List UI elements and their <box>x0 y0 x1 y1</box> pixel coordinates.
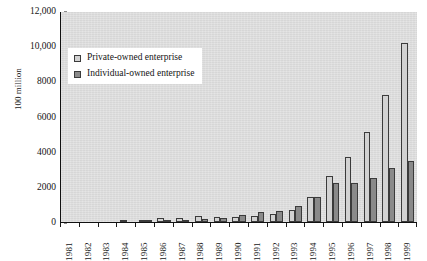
bar-group-1998 <box>379 12 398 222</box>
bar-1984-series0 <box>120 220 127 222</box>
bar-1999-series0 <box>401 43 408 222</box>
bar-1985-series1 <box>145 220 152 222</box>
bar-1995-series1 <box>333 183 340 222</box>
x-axis-group-1994: 1994 <box>304 223 323 261</box>
chart-legend: Private-owned enterpriseIndividual-owned… <box>68 48 202 84</box>
bar-1993-series0 <box>289 210 296 222</box>
bar-group-1987 <box>173 12 192 222</box>
y-axis-tick-12000: 12,000 <box>10 7 56 17</box>
x-axis-tick-1989: 1989 <box>215 228 224 261</box>
bar-1990-series0 <box>232 217 239 222</box>
x-axis-tick-1998: 1998 <box>384 228 393 261</box>
y-axis-tick-6000: 6000 <box>10 113 56 123</box>
bar-group-1997 <box>361 12 380 222</box>
x-axis-tick-1982: 1982 <box>84 228 93 261</box>
x-axis-tick-1999: 1999 <box>403 228 412 261</box>
bar-1998-series0 <box>382 95 389 222</box>
bar-group-1981 <box>61 12 80 222</box>
x-axis-group-1985: 1985 <box>135 223 154 261</box>
bar-1993-series1 <box>295 206 302 222</box>
bar-group-1988 <box>192 12 211 222</box>
x-axis-tick-1983: 1983 <box>102 228 111 261</box>
bar-1986-series0 <box>157 218 164 222</box>
bar-1991-series1 <box>258 212 265 222</box>
bar-group-1990 <box>230 12 249 222</box>
x-axis-group-1983: 1983 <box>98 223 117 261</box>
bar-1992-series1 <box>276 211 283 222</box>
y-axis-tick-8000: 8000 <box>10 78 56 88</box>
y-axis-tick-labels: 0200040006000800010,00012,000 <box>8 0 56 261</box>
bar-1989-series0 <box>214 217 221 222</box>
x-axis-group-1987: 1987 <box>173 223 192 261</box>
bar-1986-series1 <box>164 220 171 222</box>
bar-1997-series0 <box>364 132 371 222</box>
y-axis-tick-0: 0 <box>10 218 56 228</box>
x-axis-tick-1996: 1996 <box>347 228 356 261</box>
x-axis-group-1993: 1993 <box>286 223 305 261</box>
bar-group-1986 <box>155 12 174 222</box>
bar-1995-series0 <box>326 176 333 222</box>
bar-1994-series1 <box>314 197 321 222</box>
x-axis-group-1986: 1986 <box>154 223 173 261</box>
legend-item-0: Private-owned enterprise <box>74 52 194 64</box>
bar-group-1999 <box>398 12 417 222</box>
bar-group-1985 <box>136 12 155 222</box>
x-axis-tick-1990: 1990 <box>234 228 243 261</box>
x-axis-tick-1988: 1988 <box>196 228 205 261</box>
x-axis-tick-1981: 1981 <box>65 228 74 261</box>
x-axis-group-1995: 1995 <box>323 223 342 261</box>
y-axis-tick-10000: 10,000 <box>10 42 56 52</box>
bar-1988-series1 <box>202 219 209 222</box>
bar-1991-series0 <box>251 216 258 222</box>
y-axis-tick-2000: 2000 <box>10 183 56 193</box>
x-axis-tick-1997: 1997 <box>366 228 375 261</box>
x-axis-tick-1984: 1984 <box>121 228 130 261</box>
bar-group-1994 <box>305 12 324 222</box>
y-axis-tick-4000: 4000 <box>10 148 56 158</box>
bar-group-1993 <box>286 12 305 222</box>
bar-group-1983 <box>98 12 117 222</box>
bar-1987-series1 <box>183 220 190 222</box>
x-axis-group-1996: 1996 <box>342 223 361 261</box>
bar-1994-series0 <box>307 197 314 222</box>
x-axis-tick-labels: 1981198219831984198519861987198819891990… <box>60 223 417 261</box>
bar-group-1991 <box>248 12 267 222</box>
bar-group-1982 <box>80 12 99 222</box>
x-axis-group-1997: 1997 <box>361 223 380 261</box>
x-axis-tick-1992: 1992 <box>272 228 281 261</box>
x-axis-group-1982: 1982 <box>79 223 98 261</box>
bar-group-1992 <box>267 12 286 222</box>
bar-1985-series0 <box>139 220 146 222</box>
x-axis-tick-1993: 1993 <box>290 228 299 261</box>
x-axis-tick-1986: 1986 <box>159 228 168 261</box>
bar-1990-series1 <box>239 215 246 222</box>
bar-group-1989 <box>211 12 230 222</box>
legend-label-0: Private-owned enterprise <box>87 53 182 63</box>
bar-1996-series0 <box>345 157 352 222</box>
x-axis-tick-1991: 1991 <box>253 228 262 261</box>
bar-1996-series1 <box>351 183 358 222</box>
bar-1988-series0 <box>195 216 202 222</box>
x-axis-group-1990: 1990 <box>229 223 248 261</box>
bar-1992-series0 <box>270 214 277 222</box>
x-axis-tick-1995: 1995 <box>328 228 337 261</box>
bar-groups <box>61 12 417 222</box>
legend-item-1: Individual-owned enterprise <box>74 68 194 80</box>
x-axis-tick-1994: 1994 <box>309 228 318 261</box>
x-axis-group-1999: 1999 <box>398 223 417 261</box>
bar-1997-series1 <box>370 178 377 222</box>
bar-group-1996 <box>342 12 361 222</box>
x-axis-group-1984: 1984 <box>116 223 135 261</box>
x-axis-group-1991: 1991 <box>248 223 267 261</box>
plot-area <box>60 12 417 223</box>
x-axis-group-1992: 1992 <box>267 223 286 261</box>
bar-1987-series0 <box>176 218 183 222</box>
bar-1989-series1 <box>220 218 227 222</box>
bar-chart-figure: 100 million 0200040006000800010,00012,00… <box>0 0 427 261</box>
bar-1999-series1 <box>408 161 415 222</box>
bar-1998-series1 <box>389 168 396 223</box>
legend-swatch-icon-1 <box>74 71 81 78</box>
x-axis-group-1988: 1988 <box>192 223 211 261</box>
x-axis-group-1981: 1981 <box>60 223 79 261</box>
legend-swatch-icon-0 <box>74 55 81 62</box>
